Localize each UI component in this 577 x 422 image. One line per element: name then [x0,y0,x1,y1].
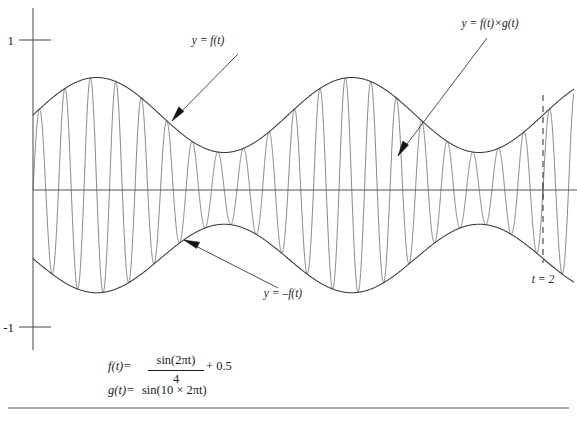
annotation-label-f-of-t: y = f(t) [191,34,225,47]
arrow-head-f-of-t [172,107,184,121]
y-tick-label-negative-one: -1 [3,320,14,335]
annotation-label-f-times-g: y = f(t)×g(t) [460,17,518,30]
arrow-head-f-times-g [398,141,408,156]
modulated-carrier-curve [33,78,574,292]
arrow-head-negative-f-of-t [184,240,200,248]
f-definition-tail: + 0.5 [206,359,232,373]
g-definition-lhs: g(t)= [108,383,134,397]
annotation-layer: y = f(t)y = f(t)×g(t)y = –f(t) [172,17,519,300]
y-tick-label-positive-one: 1 [8,33,15,48]
tick-labels: 1 -1 [3,33,14,335]
annotation-f-times-g: y = f(t)×g(t) [398,17,519,156]
formula-block: f(t)= sin(2πt) 4 + 0.5 g(t)= sin(10 × 2π… [108,353,232,397]
f-definition-numerator: sin(2πt) [157,353,196,367]
signal-plot: 1 -1 t = 2 y = f(t)y = f(t)×g(t)y = –f(t… [0,0,577,422]
g-definition-rhs: sin(10 × 2πt) [142,383,207,397]
annotation-f-of-t: y = f(t) [172,34,238,121]
annotation-label-negative-f-of-t: y = –f(t) [263,287,303,300]
annotation-negative-f-of-t: y = –f(t) [184,240,302,300]
plot-curves [33,78,574,293]
t2-label: t = 2 [532,273,555,285]
f-definition-lhs: f(t)= [108,359,132,373]
figure-container: 1 -1 t = 2 y = f(t)y = f(t)×g(t)y = –f(t… [0,0,577,422]
leader-line-negative-f-of-t [184,240,278,288]
